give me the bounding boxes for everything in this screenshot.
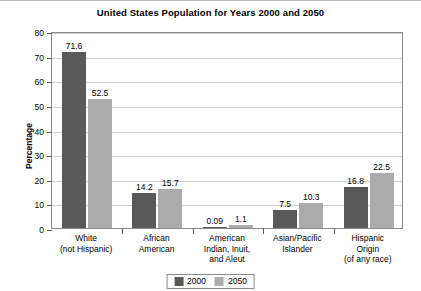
y-axis-tick-label: 30: [35, 151, 44, 161]
bar-group: 71.652.5: [52, 33, 122, 228]
bar-group: 14.215.7: [122, 33, 192, 228]
x-axis-category-labels: White(not Hispanic)AfricanAmericanAmeric…: [51, 233, 403, 273]
y-axis-title: Percentage: [24, 123, 34, 169]
category-label-line: African: [121, 233, 191, 244]
bar-group: 7.510.3: [263, 33, 333, 228]
y-axis-tick-label: 50: [35, 102, 44, 112]
bar-group: 16.822.5: [334, 33, 404, 228]
legend-swatch: [215, 277, 224, 286]
y-axis-tick-label: 0: [39, 225, 44, 235]
category-label-line: American: [121, 244, 191, 255]
bar-2000: 0.09: [203, 227, 227, 228]
y-axis-tick-label: 10: [35, 200, 44, 210]
category-label-line: and Aleut: [192, 254, 262, 265]
bar-value-label: 14.2: [136, 182, 153, 192]
bar-2050: 22.5: [370, 173, 394, 228]
bar-2000: 14.2: [132, 193, 156, 228]
plot-inner: 0102030405060708071.652.514.215.70.091.1…: [52, 33, 402, 228]
y-axis-tick-label: 40: [35, 127, 44, 137]
y-axis-tick-label: 60: [35, 77, 44, 87]
category-label-line: Origin: [333, 244, 403, 255]
bar-2000: 7.5: [273, 210, 297, 228]
bar-group: 0.091.1: [193, 33, 263, 228]
bar-value-label: 10.3: [303, 192, 320, 202]
legend-label: 2000: [187, 277, 206, 286]
chart-page: United States Population for Years 2000 …: [0, 0, 421, 291]
bar-value-label: 1.1: [235, 214, 247, 224]
y-axis-tick-label: 20: [35, 176, 44, 186]
bar-value-label: 16.8: [347, 176, 364, 186]
category-label-line: Islander: [262, 244, 332, 255]
bar-value-label: 15.7: [162, 178, 179, 188]
y-axis-tick: [47, 230, 52, 231]
category-label-line: White: [51, 233, 121, 244]
bar-2000: 71.6: [62, 52, 86, 228]
legend-label: 2050: [228, 277, 247, 286]
x-axis-category-label: HispanicOrigin(of any race): [333, 233, 403, 265]
category-label-line: Hispanic: [333, 233, 403, 244]
x-axis-category-label: Asian/PacificIslander: [262, 233, 332, 254]
bar-2050: 1.1: [229, 225, 253, 228]
x-axis-category-label: White(not Hispanic): [51, 233, 121, 254]
chart-legend: 20002050: [166, 274, 255, 289]
bar-value-label: 7.5: [279, 199, 291, 209]
category-label-line: Indian, Inuit,: [192, 244, 262, 255]
bar-value-label: 71.6: [66, 41, 83, 51]
bar-2050: 15.7: [158, 189, 182, 228]
chart-title: United States Population for Years 2000 …: [0, 7, 421, 18]
x-axis-category-label: AmericanIndian, Inuit,and Aleut: [192, 233, 262, 265]
category-label-line: American: [192, 233, 262, 244]
legend-item: 2000: [174, 277, 206, 286]
bar-value-label: 0.09: [207, 216, 224, 226]
bar-2050: 52.5: [88, 99, 112, 228]
plot-area: 0102030405060708071.652.514.215.70.091.1…: [51, 32, 403, 229]
bar-2000: 16.8: [344, 187, 368, 228]
x-axis-category-label: AfricanAmerican: [121, 233, 191, 254]
bar-2050: 10.3: [299, 203, 323, 228]
category-label-line: (not Hispanic): [51, 244, 121, 255]
category-label-line: Asian/Pacific: [262, 233, 332, 244]
legend-item: 2050: [215, 277, 247, 286]
y-axis-tick-label: 70: [35, 53, 44, 63]
bar-value-label: 22.5: [373, 162, 390, 172]
legend-swatch: [174, 277, 183, 286]
y-axis-tick-label: 80: [35, 28, 44, 38]
category-label-line: (of any race): [333, 254, 403, 265]
bar-value-label: 52.5: [92, 88, 109, 98]
